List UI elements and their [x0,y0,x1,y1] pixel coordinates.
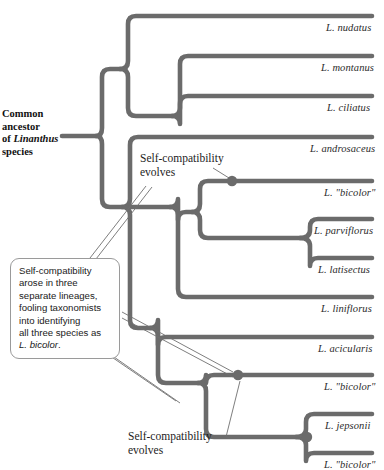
leader-line-callout-top-a [90,186,146,258]
tip-label-nudatus: L. nudatus [326,22,371,33]
annotation-bottom-event: Self-compatibility evolves [128,430,212,457]
tip-label-latisectus: L. latisectus [318,264,370,275]
leader-line-callout-bottom-b [104,350,180,403]
callout-line3: separate lineages, [19,290,97,301]
branch-root-split-lower [96,136,122,207]
callout-line5: into identifying [19,315,80,326]
leader-line-callout-top-b [96,187,152,259]
annotation-bottom-event-line1: Self-compatibility [128,430,212,442]
callout-species-name: L. bicolor [19,339,58,350]
annotation-top-event: Self-compatibility evolves [140,152,224,179]
branch-upper-node-to-mc [120,69,172,116]
root-label-genus: Linanthus [13,133,58,144]
root-ancestor-label: Common ancestor of Linanthus species [2,108,62,158]
callout-line4: fooling taxonomists [19,302,101,313]
leader-line-callout-mid-a [122,312,233,372]
leader-line-callout-mid-b [122,318,233,377]
branch-lower-node-to-rest [122,207,150,328]
tip-label-acicularis: L. acicularis [318,343,372,354]
root-label-line4: species [2,146,33,157]
branch-node206-to-jb [198,383,296,437]
tip-label-montanus: L. montanus [321,62,374,73]
root-label-line1: Common [2,108,43,119]
branch-node200-to-pl [192,212,300,238]
self-compatibility-event-nodes [227,176,312,442]
tip-label-bicolor-2: L. "bicolor" [324,381,375,392]
tree-branches [62,16,372,461]
tip-label-parviflorus: L. parviflorus [314,225,373,236]
event-node-2-dot [233,370,243,380]
tip-label-bicolor-1: L. "bicolor" [324,187,375,198]
root-label-line3-prefix: of [2,133,13,144]
annotation-top-event-line1: Self-compatibility [140,152,224,164]
annotation-top-event-line2: evolves [140,166,175,178]
callout-line1: Self-compatibility [19,265,92,276]
tip-label-androsaceus: L. androsaceus [310,143,375,154]
tip-label-bicolor-3: L. "bicolor" [324,459,375,470]
tip-label-ciliatus: L. ciliatus [327,102,370,113]
callout-box: Self-compatibility arose in three separa… [10,258,120,359]
tip-label-jepsonii: L. jepsonii [325,420,370,431]
event-node-3-dot [302,432,312,442]
event-node-1-dot [227,176,237,186]
branch-pl-node-to-latisectus [300,238,372,266]
branch-node210-to-acicularis [150,320,372,345]
root-label-line2: ancestor [2,121,40,132]
callout-line6: all three species as [19,327,101,338]
tip-label-liniflorus: L. liniflorus [321,303,372,314]
callout-line2: arose in three [19,277,78,288]
leader-line-bottom-event-a [226,381,240,437]
callout-period: . [58,339,61,350]
branch-root-split [96,69,120,136]
annotation-bottom-event-line2: evolves [128,444,163,456]
